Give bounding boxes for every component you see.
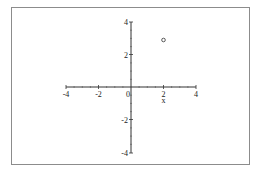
y-tick-label: 2 bbox=[124, 51, 128, 60]
y-tick-label: -2 bbox=[121, 116, 128, 125]
x-tick-label: -4 bbox=[63, 90, 70, 99]
y-tick-label: 4 bbox=[124, 18, 128, 27]
y-tick-label: -4 bbox=[121, 149, 128, 158]
x-tick-label: -2 bbox=[95, 90, 102, 99]
x-axis-label: x bbox=[162, 96, 166, 105]
data-point bbox=[162, 38, 166, 42]
plot-area: -4 -2 0 2 4 x 4 2 -2 -4 bbox=[0, 0, 259, 175]
x-tick-label: 4 bbox=[194, 90, 198, 99]
x-tick-label: 0 bbox=[126, 90, 130, 99]
